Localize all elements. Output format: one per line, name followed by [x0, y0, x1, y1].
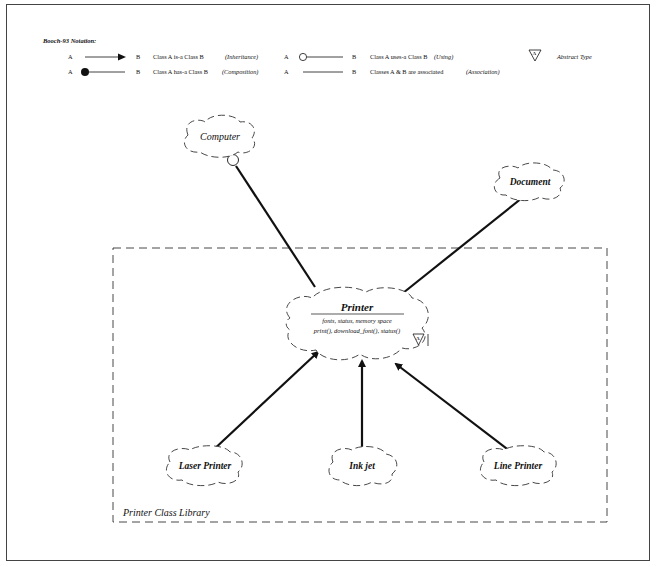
- legend-inheritance-desc: Class A is-a Class B: [153, 54, 204, 60]
- using-line: [236, 166, 315, 287]
- legend-inheritance-b: B: [136, 54, 140, 60]
- legend-abstract-label: Abstract Type: [557, 54, 592, 60]
- legend-using-icon: [299, 53, 343, 60]
- inheritance-laser-line: [210, 352, 318, 453]
- legend-using-a: A: [284, 54, 289, 60]
- line-printer-label: Line Printer: [494, 461, 542, 471]
- legend-inheritance-a: A: [68, 54, 73, 60]
- inheritance-line-printer-line: [396, 364, 511, 452]
- legend-association-kind: (Association): [466, 69, 500, 75]
- legend-abstract-glyph: A: [533, 51, 537, 56]
- legend-composition-icon: [81, 68, 125, 76]
- printer-title: Printer: [341, 301, 373, 313]
- printer-attributes: fonts, status, memory space: [322, 317, 391, 324]
- legend-composition-kind: (Composition): [222, 69, 258, 75]
- legend-inheritance-kind: (Inheritance): [225, 54, 258, 60]
- library-label: Printer Class Library: [123, 508, 210, 518]
- printer-operations: print(), download_font(), status(): [314, 327, 400, 334]
- legend-association-a: A: [284, 69, 289, 75]
- legend-using-b: B: [352, 54, 356, 60]
- legend-using-desc: Class A uses-a Class B: [370, 54, 427, 60]
- legend-title: Booch-93 Notation:: [43, 38, 96, 45]
- legend-composition-desc: Class A has-a Class B: [153, 69, 208, 75]
- association-line: [398, 190, 532, 297]
- legend-composition-a: A: [68, 69, 73, 75]
- computer-label: Computer: [200, 131, 240, 142]
- printer-abstract-glyph: A: [416, 336, 420, 341]
- legend-association-desc: Classes A & B are associated: [370, 69, 443, 75]
- legend-inheritance-arrow-icon: [85, 54, 126, 61]
- legend-association-b: B: [352, 69, 356, 75]
- legend-using-kind: (Using): [434, 54, 453, 60]
- laser-printer-label: Laser Printer: [179, 461, 232, 471]
- document-label: Document: [510, 177, 551, 187]
- diagram-canvas: [0, 0, 660, 569]
- legend-composition-b: B: [136, 69, 140, 75]
- inkjet-label: Ink jet: [349, 461, 375, 471]
